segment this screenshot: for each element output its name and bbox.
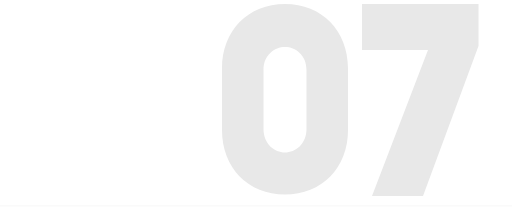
bottom-divider-soft [0, 206, 512, 207]
decorative-numeral-block: 07 [0, 0, 512, 217]
page-root: 07 [0, 0, 512, 217]
numeral-digit-seven [362, 4, 479, 196]
numeral-digit-zero [222, 4, 348, 195]
numeral-07-graphic [0, 0, 512, 217]
